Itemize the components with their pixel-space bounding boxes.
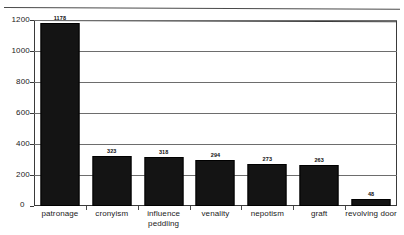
bar[interactable] — [92, 156, 131, 206]
bar-value-label: 1178 — [54, 15, 66, 21]
y-tick-label: 800 — [16, 78, 30, 86]
x-axis-labels: patronagecronyisminfluence peddlingvenal… — [34, 209, 397, 235]
bar-slot: 294 — [190, 20, 242, 206]
y-axis-labels: 20040060080010001200 — [0, 20, 30, 206]
bars-layer: 117832331829427326348 — [34, 20, 397, 206]
y-tick-label: 1200 — [11, 16, 30, 24]
y-tick-label: 1000 — [11, 47, 30, 55]
y-tick-label: 400 — [16, 140, 30, 148]
bar[interactable] — [248, 164, 287, 206]
y-tick-label-zero: 0 — [20, 201, 24, 209]
bar-slot: 263 — [293, 20, 345, 206]
bar-value-label: 273 — [263, 156, 272, 162]
bar[interactable] — [300, 165, 339, 206]
bar-value-label: 48 — [368, 191, 374, 197]
bar[interactable] — [144, 157, 183, 206]
bar-value-label: 318 — [159, 149, 168, 155]
bar-slot: 1178 — [34, 20, 86, 206]
bar-slot: 273 — [241, 20, 293, 206]
bar[interactable] — [196, 160, 235, 206]
bar[interactable] — [352, 199, 391, 206]
bar-value-label: 323 — [107, 148, 116, 154]
bar-value-label: 294 — [211, 152, 220, 158]
bar-slot: 48 — [345, 20, 397, 206]
x-axis-category-label: revolving door — [339, 209, 403, 219]
bar-value-label: 263 — [314, 157, 323, 163]
bar[interactable] — [40, 23, 79, 206]
y-tick-label: 600 — [16, 109, 30, 117]
scan-artifact-rule — [4, 7, 400, 10]
bar-chart: 20040060080010001200 1178323318294273263… — [0, 0, 404, 235]
y-tick-label: 200 — [16, 171, 30, 179]
bar-slot: 323 — [86, 20, 138, 206]
bar-slot: 318 — [138, 20, 190, 206]
